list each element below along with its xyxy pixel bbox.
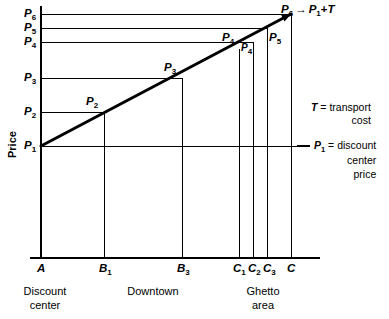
point-label-p3-sub: 3 bbox=[172, 67, 176, 76]
note-discount-text1: discount bbox=[337, 139, 376, 151]
y-axis-title: Price bbox=[6, 131, 18, 158]
x-tick-c1: C1 bbox=[233, 262, 246, 277]
y-tick-p5-name: P bbox=[24, 21, 32, 33]
x-tick-b3: B3 bbox=[177, 262, 190, 277]
region-discount-center: Discount center bbox=[10, 285, 80, 313]
note-discount-equals: = bbox=[328, 139, 334, 151]
point-label-p4-inner-name: P bbox=[241, 42, 248, 53]
x-tick-c2-sub: 2 bbox=[256, 268, 260, 277]
note-transport-cost: T = transport cost bbox=[311, 101, 371, 127]
note-discount-text2: center bbox=[314, 154, 376, 167]
y-tick-p1-sub: 1 bbox=[32, 145, 36, 154]
gridlines-vertical bbox=[104, 14, 291, 258]
y-tick-p1-name: P bbox=[24, 139, 32, 151]
x-tick-a: A bbox=[37, 262, 45, 277]
point-label-p4-outer-name: P bbox=[222, 31, 230, 43]
y-tick-p6-name: P bbox=[24, 7, 32, 19]
point-label-p4-outer-sub: 4 bbox=[230, 37, 234, 46]
x-tick-b1-sub: 1 bbox=[107, 268, 111, 277]
point-label-p4-outer: P4 bbox=[222, 31, 234, 46]
x-tick-c: C bbox=[287, 262, 295, 277]
y-tick-p1: P1 bbox=[24, 139, 36, 154]
point-label-p2: P2 bbox=[86, 95, 98, 110]
x-tick-c1-sub: 1 bbox=[241, 268, 245, 277]
y-tick-p2: P2 bbox=[24, 105, 36, 120]
note-discount-text3: price bbox=[314, 168, 376, 181]
point-label-p5-name: P bbox=[269, 31, 277, 43]
top-equation-annotation: P6→P1+T bbox=[281, 3, 335, 18]
region-discount-center-line1: Discount bbox=[10, 285, 80, 299]
x-tick-c3: C3 bbox=[263, 262, 276, 277]
region-ghetto-line1: Ghetto bbox=[232, 285, 294, 299]
y-tick-p2-sub: 2 bbox=[32, 111, 36, 120]
x-tick-c2: C2 bbox=[248, 262, 261, 277]
point-label-p4-inner-sub: 4 bbox=[248, 47, 252, 56]
region-downtown-line1: Downtown bbox=[113, 285, 193, 299]
y-tick-p3: P3 bbox=[24, 71, 36, 86]
x-tick-c-name: C bbox=[287, 262, 295, 274]
point-label-p5: P5 bbox=[269, 31, 281, 46]
y-tick-p2-name: P bbox=[24, 105, 32, 117]
y-tick-p4-name: P bbox=[24, 35, 32, 47]
point-label-p2-name: P bbox=[86, 95, 94, 107]
top-equation-left-name: P bbox=[281, 3, 289, 15]
region-downtown: Downtown bbox=[113, 285, 193, 299]
y-tick-p4: P4 bbox=[24, 35, 36, 50]
point-label-p4-inner: P4 bbox=[241, 42, 252, 56]
arrow-icon: → bbox=[293, 3, 309, 15]
y-tick-p3-sub: 3 bbox=[32, 77, 36, 86]
point-label-p5-sub: 5 bbox=[277, 37, 281, 46]
point-label-p3: P3 bbox=[164, 61, 176, 76]
region-ghetto-line2: area bbox=[232, 299, 294, 313]
point-label-p2-sub: 2 bbox=[94, 101, 98, 110]
region-discount-center-line2: center bbox=[10, 299, 80, 313]
x-tick-b1: B1 bbox=[99, 262, 112, 277]
note-transport-equals: = bbox=[320, 101, 326, 113]
y-tick-p3-name: P bbox=[24, 71, 32, 83]
price-gradient-figure: Price P6 P5 P4 P3 P2 P1 A B1 B3 C1 C2 C3… bbox=[0, 0, 389, 319]
note-transport-text2: cost bbox=[311, 114, 371, 127]
note-transport-symbol: T bbox=[311, 101, 317, 113]
note-transport-line1: T = transport bbox=[311, 101, 371, 114]
note-transport-text1: transport bbox=[329, 101, 370, 113]
note-discount-line1: P1 = discount bbox=[314, 139, 376, 154]
y-tick-p4-sub: 4 bbox=[32, 41, 36, 50]
note-discount-price: P1 = discount center price bbox=[314, 139, 376, 181]
note-discount-symbol: P1 bbox=[314, 139, 325, 151]
point-label-p3-name: P bbox=[164, 61, 172, 73]
x-tick-a-name: A bbox=[37, 262, 45, 274]
region-ghetto: Ghetto area bbox=[232, 285, 294, 313]
x-tick-b3-sub: 3 bbox=[185, 268, 189, 277]
top-equation-term: T bbox=[327, 3, 334, 15]
x-tick-c3-sub: 3 bbox=[271, 268, 275, 277]
